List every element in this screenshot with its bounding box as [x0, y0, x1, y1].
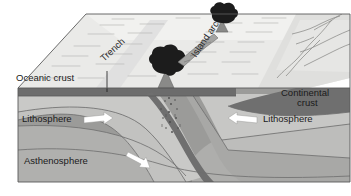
volcano-ash-cloud-back — [210, 2, 238, 23]
oceanic-crust-layer — [18, 88, 160, 96]
arc-crust-layer — [160, 88, 236, 96]
label-lithosphere-left: Lithosphere — [22, 113, 72, 124]
label-asthenosphere: Asthenosphere — [24, 155, 88, 166]
label-lithosphere-right: Lithosphere — [263, 113, 313, 124]
label-oceanic-crust: Oceanic crust — [16, 72, 74, 83]
figure-canvas: Oceanic crust Trench Island arc Continen… — [0, 0, 351, 196]
subduction-block-diagram: Oceanic crust Trench Island arc Continen… — [0, 0, 351, 196]
label-continental-crust-line2: crust — [297, 97, 318, 108]
